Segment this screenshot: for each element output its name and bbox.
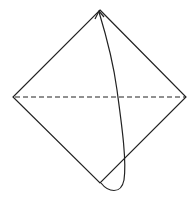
- fold-arrow-curve: [99, 12, 125, 191]
- origami-diagram: [0, 0, 196, 199]
